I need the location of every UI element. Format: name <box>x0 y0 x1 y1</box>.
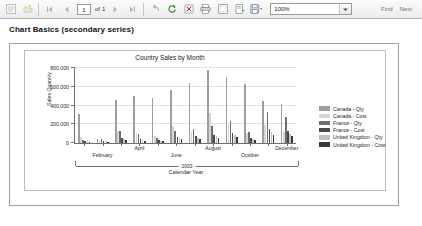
bar-group <box>149 68 167 143</box>
legend-item: United Kingdom - Qty <box>319 134 415 141</box>
bar-group <box>222 68 240 143</box>
report-body: Chart Basics (secondary series) Country … <box>0 19 422 226</box>
bar-group <box>93 68 111 143</box>
bar <box>273 135 275 143</box>
x-axis-tick <box>268 143 269 146</box>
bar-group <box>241 68 259 143</box>
legend-label: United Kingdom - Cost <box>333 142 385 148</box>
legend-item: Canada - Qty <box>319 105 415 112</box>
next-page-icon[interactable] <box>108 2 123 17</box>
bar <box>162 141 164 143</box>
print-layout-icon[interactable] <box>215 2 230 17</box>
stop-icon[interactable] <box>181 2 196 17</box>
total-page-count: 1 <box>102 6 105 12</box>
find-link[interactable]: Find <box>381 6 393 12</box>
x-axis-tick <box>232 143 233 146</box>
find-controls: Find Next <box>374 6 420 12</box>
chart-container: Country Sales by Month Sales Quantity 02… <box>24 50 386 191</box>
y-axis-label: 400.000 <box>50 103 69 109</box>
bar <box>89 142 91 143</box>
legend-swatch <box>319 135 330 140</box>
x-axis-tick <box>250 143 251 146</box>
legend-swatch <box>319 142 330 147</box>
chart-title: Country Sales by Month <box>25 54 315 61</box>
y-axis-label: 0 <box>66 140 69 146</box>
legend-label: Canada - Cost <box>333 113 366 119</box>
bar <box>125 140 127 143</box>
toolbar-separator <box>38 3 39 16</box>
find-next-link[interactable]: Next <box>400 6 412 12</box>
bar <box>254 140 256 143</box>
print-icon[interactable] <box>198 2 213 17</box>
legend-item: France - Qty <box>319 119 415 126</box>
x-axis-tick <box>84 143 85 146</box>
bar <box>107 142 109 143</box>
x-axis-tick <box>103 143 104 146</box>
legend-swatch <box>319 106 330 111</box>
legend-label: United Kingdom - Qty <box>333 134 383 140</box>
x-axis-tick <box>176 143 177 146</box>
bar-group <box>112 68 130 143</box>
legend-item: Canada - Cost <box>319 112 415 119</box>
toolbar-group-document <box>2 1 36 18</box>
back-icon[interactable] <box>147 2 162 17</box>
y-axis-label: 600.000 <box>50 84 69 90</box>
toolbar-separator <box>143 3 144 16</box>
x-axis-tick <box>195 143 196 146</box>
chart-legend: Canada - QtyCanada - CostFrance - QtyFra… <box>319 105 415 148</box>
report-viewer: 1 of 1 <box>0 0 422 226</box>
x-axis-label: December <box>275 145 298 151</box>
legend-label: France - Cost <box>333 127 364 133</box>
legend-item: United Kingdom - Cost <box>319 141 415 148</box>
bar <box>218 138 220 143</box>
x-axis-label: April <box>134 145 144 151</box>
x-axis-tick <box>121 143 122 146</box>
x-axis-title: Calendar Year <box>75 169 297 175</box>
legend-swatch <box>319 128 330 133</box>
toolbar-group-pagination: 1 of 1 <box>41 1 141 18</box>
legend-swatch <box>319 121 330 126</box>
bar <box>181 139 183 143</box>
refresh-icon[interactable] <box>164 2 179 17</box>
current-page-input[interactable]: 1 <box>77 4 91 15</box>
report-page: Country Sales by Month Sales Quantity 02… <box>9 43 399 206</box>
legend-swatch <box>319 114 330 119</box>
page-setup-icon[interactable] <box>232 2 247 17</box>
x-axis-tick <box>158 143 159 146</box>
last-page-icon[interactable] <box>125 2 140 17</box>
chevron-down-icon[interactable] <box>339 4 351 14</box>
y-axis-label: 200.000 <box>50 121 69 127</box>
bar-group <box>278 68 296 143</box>
bar-group <box>167 68 185 143</box>
bar <box>236 137 238 143</box>
bar-group <box>259 68 277 143</box>
x-axis-label: June <box>171 152 182 158</box>
zoom-select[interactable]: 100% <box>270 3 352 15</box>
first-page-icon[interactable] <box>42 2 57 17</box>
bar <box>144 141 146 143</box>
x-axis-label: October <box>241 152 259 158</box>
bar <box>291 136 293 143</box>
x-axis-label: August <box>205 145 221 151</box>
zoom-value: 100% <box>271 6 339 12</box>
page-title: Chart Basics (secondary series) <box>9 25 134 34</box>
export-icon[interactable] <box>249 2 264 17</box>
legend-label: Canada - Qty <box>333 106 364 112</box>
x-axis-label: February <box>93 152 113 158</box>
bar <box>199 139 201 143</box>
page-of-label: of <box>95 6 100 12</box>
bar-groups <box>75 68 296 143</box>
bar-group <box>130 68 148 143</box>
previous-page-icon[interactable] <box>59 2 74 17</box>
bar-group <box>75 68 93 143</box>
chart-plot-area: 0200.000400.000600.000800.000 FebruaryAp… <box>74 68 296 144</box>
document-map-icon[interactable] <box>3 2 18 17</box>
back-to-parent-icon[interactable] <box>20 2 35 17</box>
bar-group <box>204 68 222 143</box>
x-axis-group-brace: 2003 <box>75 161 299 166</box>
y-axis-label: 800.000 <box>50 65 69 71</box>
toolbar-group-actions <box>146 1 265 18</box>
legend-item: France - Cost <box>319 127 415 134</box>
legend-label: France - Qty <box>333 120 362 126</box>
bar-group <box>186 68 204 143</box>
